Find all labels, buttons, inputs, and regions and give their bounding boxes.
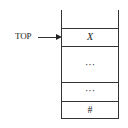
top-pointer-label: TOP	[15, 31, 31, 41]
arrow-icon	[38, 37, 56, 38]
stack-cell: ···	[62, 85, 118, 96]
stack-cell-top: X	[62, 31, 118, 42]
cell-divider	[61, 28, 119, 29]
stack-cell-bottom: #	[62, 104, 118, 115]
cell-divider	[61, 101, 119, 102]
stack-cell: ···	[62, 59, 118, 70]
cell-divider	[61, 46, 119, 47]
cell-divider	[61, 82, 119, 83]
stack-bottom	[61, 118, 119, 119]
arrow-head-icon	[56, 34, 62, 40]
stack-right-wall	[118, 10, 119, 119]
